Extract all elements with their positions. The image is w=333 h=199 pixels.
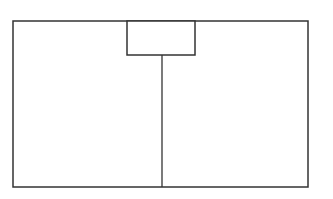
diagram-canvas	[0, 0, 333, 199]
top-center-box	[127, 21, 195, 55]
